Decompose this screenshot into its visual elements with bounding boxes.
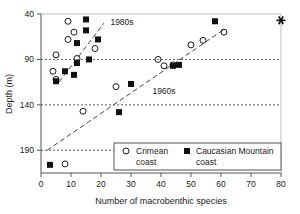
legend-label-crimean-line2: coast [136, 157, 157, 167]
data-point [86, 56, 92, 62]
x-tick-label-60: 60 [216, 179, 226, 189]
scatter-plot: 01020304050607080 4090140190 1980s1960s … [0, 0, 300, 214]
legend-marker-filled-square-icon [184, 148, 190, 154]
legend-label-caucasian-line2: coast [196, 157, 217, 167]
data-point [116, 109, 122, 115]
data-point [74, 60, 80, 66]
y-tick-label-190: 190 [20, 145, 34, 155]
data-point [71, 72, 77, 78]
data-point [83, 27, 89, 33]
y-axis-title: Depth (m) [4, 74, 14, 114]
data-point [95, 36, 101, 42]
data-point [53, 78, 59, 84]
x-tick-label-10: 10 [66, 179, 76, 189]
data-point [128, 81, 134, 87]
x-axis-title: Number of macrobenthic species [95, 196, 227, 206]
x-tick-label-30: 30 [126, 179, 136, 189]
x-tick-label-40: 40 [156, 179, 166, 189]
y-tick-label-90: 90 [25, 54, 35, 64]
annotation-1960s: 1960s [152, 86, 175, 96]
x-tick-label-0: 0 [39, 179, 44, 189]
legend-label-crimean-line1: Crimean [136, 146, 168, 156]
y-tick-label-40: 40 [25, 9, 35, 19]
data-point [47, 162, 53, 168]
legend: Crimean coast Caucasian Mountain coast [114, 143, 281, 170]
x-tick-label-70: 70 [246, 179, 256, 189]
legend-label-caucasian-line1: Caucasian Mountain [196, 146, 274, 156]
chart-figure: 01020304050607080 4090140190 1980s1960s … [0, 0, 300, 214]
x-tick-label-50: 50 [186, 179, 196, 189]
annotation-1980s: 1980s [110, 17, 133, 27]
data-point [176, 62, 182, 68]
data-point [83, 16, 89, 22]
x-tick-label-20: 20 [96, 179, 106, 189]
y-tick-label-140: 140 [20, 100, 34, 110]
data-point [212, 18, 218, 24]
data-point [74, 40, 80, 46]
data-point [62, 68, 68, 74]
x-tick-label-80: 80 [276, 179, 286, 189]
data-point [170, 63, 176, 69]
